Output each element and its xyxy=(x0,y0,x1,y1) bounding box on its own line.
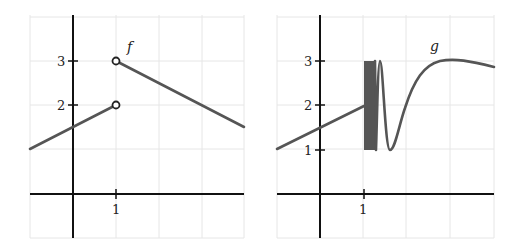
f-right-segment xyxy=(116,61,244,127)
x-tick-label-1-f: 1 xyxy=(112,202,120,217)
function-label-f: f xyxy=(126,39,135,55)
chart-g: 1 3 2 1 g xyxy=(277,15,494,238)
chart-f: 1 3 2 f xyxy=(30,15,244,238)
y-tick-label-3-g: 3 xyxy=(304,54,312,69)
y-tick-label-1-g: 1 xyxy=(304,143,312,158)
x-tick-label-1-g: 1 xyxy=(359,202,367,217)
open-circle-1-3 xyxy=(113,58,120,65)
charts-canvas: 1 3 2 f 1 3 2 1 xyxy=(0,0,523,251)
y-tick-label-2-f: 2 xyxy=(57,98,65,113)
open-circle-1-2 xyxy=(113,102,120,109)
y-tick-label-2-g: 2 xyxy=(304,98,312,113)
y-tick-label-3-f: 3 xyxy=(57,54,65,69)
grid-f xyxy=(30,15,244,238)
function-label-g: g xyxy=(430,38,439,54)
g-dense-oscillation xyxy=(364,61,375,150)
